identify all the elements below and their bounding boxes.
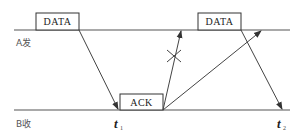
ack-frame: ACK <box>120 94 163 110</box>
receiver-label: B收 <box>16 118 31 129</box>
data-frame-1-label: DATA <box>44 16 72 27</box>
data-frame-2-label: DATA <box>206 16 234 27</box>
data-2-arrow <box>241 30 282 109</box>
timing-diagram: DATA ACK DATA A发 B收 t 1 t 2 <box>0 0 300 137</box>
ack-frame-label: ACK <box>130 97 153 108</box>
svg-text:2: 2 <box>283 125 286 131</box>
data-1-arrow <box>79 30 118 109</box>
sender-label: A发 <box>16 37 31 48</box>
ack-arrow <box>163 31 261 110</box>
svg-text:t: t <box>114 116 118 131</box>
time-mark-t1: t 1 <box>114 116 123 131</box>
svg-text:t: t <box>277 116 281 131</box>
svg-text:1: 1 <box>120 125 123 131</box>
data-frame-2: DATA <box>198 13 241 30</box>
time-mark-t2: t 2 <box>277 116 286 131</box>
data-frame-1: DATA <box>36 13 79 30</box>
